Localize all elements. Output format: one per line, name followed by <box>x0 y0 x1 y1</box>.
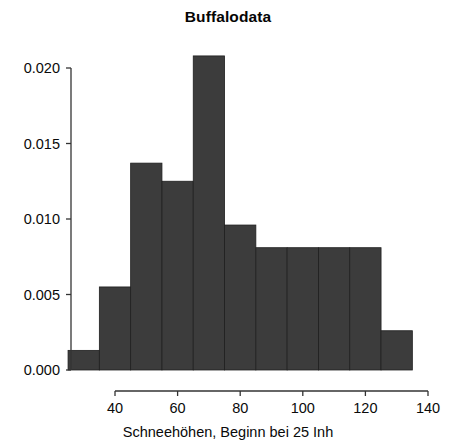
histogram-bar <box>381 331 412 370</box>
histogram-svg: 0.0000.0050.0100.0150.020406080100120140 <box>0 0 456 447</box>
y-axis-tick-label: 0.000 <box>24 362 60 378</box>
histogram-bar <box>318 248 349 370</box>
x-axis-tick-label: 100 <box>291 400 315 416</box>
y-axis: 0.0000.0050.0100.0150.020 <box>24 60 71 378</box>
plot-area: 0.0000.0050.0100.0150.020406080100120140 <box>0 0 456 447</box>
x-axis-tick-label: 40 <box>107 400 123 416</box>
histogram-bar <box>225 225 256 370</box>
histogram-bar <box>68 350 99 370</box>
histogram-bar <box>162 181 193 370</box>
x-axis-title: Schneehöhen, Beginn bei 25 Inh <box>0 424 456 440</box>
histogram-bars <box>68 56 412 370</box>
x-axis-tick-label: 80 <box>232 400 248 416</box>
histogram-bar <box>350 248 381 370</box>
y-axis-tick-label: 0.020 <box>24 60 60 76</box>
x-axis-tick-label: 140 <box>416 400 440 416</box>
histogram-bar <box>193 56 224 370</box>
x-axis: 406080100120140 <box>107 391 440 416</box>
histogram-bar <box>256 248 287 370</box>
y-axis-tick-label: 0.005 <box>24 287 60 303</box>
histogram-bar <box>99 287 130 370</box>
y-axis-tick-label: 0.015 <box>24 136 60 152</box>
histogram-bar <box>287 248 318 370</box>
y-axis-tick-label: 0.010 <box>24 211 60 227</box>
histogram-figure: Buffalodata 0.0000.0050.0100.0150.020406… <box>0 0 456 447</box>
histogram-bar <box>131 163 162 370</box>
x-axis-tick-label: 120 <box>353 400 377 416</box>
x-axis-tick-label: 60 <box>170 400 186 416</box>
